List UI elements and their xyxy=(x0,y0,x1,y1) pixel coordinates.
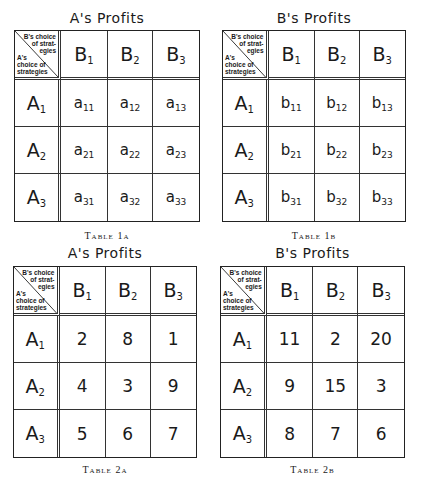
table-caption: Table 2b xyxy=(220,464,405,475)
payoff-cell: 9 xyxy=(267,363,314,410)
row-axis-label: A'schoice ofstrategies xyxy=(16,290,47,311)
column-header: B2 xyxy=(106,267,151,316)
payoff-cell: b13 xyxy=(360,80,406,127)
table-title: B's Profits xyxy=(222,10,406,26)
payoff-cell: 15 xyxy=(313,363,358,410)
payoff-cell: 5 xyxy=(60,410,106,457)
row-header: A3 xyxy=(14,410,60,457)
payoff-cell: b11 xyxy=(269,80,315,127)
table-title: B's Profits xyxy=(220,245,405,261)
payoff-cell: 20 xyxy=(358,316,404,363)
column-header: B3 xyxy=(360,31,406,80)
corner-cell: B's choiceof strat-egies A'schoice ofstr… xyxy=(14,267,60,316)
table-title: A's Profits xyxy=(13,245,197,261)
payoff-cell: b22 xyxy=(315,127,360,174)
payoff-cell: 3 xyxy=(358,363,404,410)
column-header: B1 xyxy=(269,31,315,80)
row-axis-label: A'schoice ofstrategies xyxy=(225,54,256,75)
payoff-cell: a13 xyxy=(153,80,199,127)
payoff-cell: b31 xyxy=(269,174,315,221)
payoff-cell: b23 xyxy=(360,127,406,174)
payoff-cell: a11 xyxy=(61,80,108,127)
payoff-matrix: B's choiceof strat-egies A'schoice ofstr… xyxy=(14,30,200,222)
payoff-cell: b12 xyxy=(315,80,360,127)
row-header: A3 xyxy=(223,174,269,221)
table-title: A's Profits xyxy=(14,10,200,26)
payoff-cell: 6 xyxy=(358,410,404,457)
column-header: B2 xyxy=(313,267,358,316)
payoff-cell: 7 xyxy=(313,410,358,457)
column-axis-label: B's choiceof strat-egies xyxy=(22,269,54,290)
row-header: A1 xyxy=(14,316,60,363)
row-axis-label: A'schoice ofstrategies xyxy=(223,290,254,311)
corner-cell: B's choiceof strat-egies A'schoice ofstr… xyxy=(221,267,267,316)
table-caption: Table 2a xyxy=(13,464,197,475)
table-caption: Table 1b xyxy=(222,230,406,241)
row-header: A1 xyxy=(15,80,61,127)
payoff-cell: 2 xyxy=(60,316,106,363)
payoff-matrix: B's choiceof strat-egies A'schoice ofstr… xyxy=(220,266,405,458)
column-axis-label: B's choiceof strat-egies xyxy=(24,33,56,54)
row-header: A1 xyxy=(221,316,267,363)
payoff-cell: 4 xyxy=(60,363,106,410)
payoff-cell: a22 xyxy=(108,127,153,174)
row-axis-label: A'schoice ofstrategies xyxy=(17,54,48,75)
column-header: B3 xyxy=(153,31,199,80)
column-axis-label: B's choiceof strat-egies xyxy=(231,33,263,54)
payoff-cell: a21 xyxy=(61,127,108,174)
payoff-cell: b21 xyxy=(269,127,315,174)
payoff-cell: 1 xyxy=(151,316,197,363)
payoff-cell: 7 xyxy=(151,410,197,457)
column-header: B2 xyxy=(315,31,360,80)
payoff-cell: 8 xyxy=(106,316,151,363)
payoff-cell: a12 xyxy=(108,80,153,127)
corner-cell: B's choiceof strat-egies A'schoice ofstr… xyxy=(15,31,61,80)
payoff-cell: 6 xyxy=(106,410,151,457)
table-1b-panel: B's Profits B's choiceof strat-egies A's… xyxy=(222,8,406,238)
column-axis-label: B's choiceof strat-egies xyxy=(229,269,261,290)
column-header: B3 xyxy=(358,267,404,316)
row-header: A1 xyxy=(223,80,269,127)
row-header: A2 xyxy=(14,363,60,410)
table-2a-panel: A's Profits B's choiceof strat-egies A's… xyxy=(13,243,197,478)
payoff-cell: a32 xyxy=(108,174,153,221)
payoff-matrix: B's choiceof strat-egies A'schoice ofstr… xyxy=(13,266,197,458)
row-header: A2 xyxy=(221,363,267,410)
column-header: B1 xyxy=(61,31,108,80)
payoff-cell: 8 xyxy=(267,410,314,457)
payoff-matrix: B's choiceof strat-egies A'schoice ofstr… xyxy=(222,30,406,222)
row-header: A2 xyxy=(223,127,269,174)
payoff-cell: 3 xyxy=(106,363,151,410)
column-header: B1 xyxy=(60,267,106,316)
payoff-cell: b33 xyxy=(360,174,406,221)
row-header: A3 xyxy=(221,410,267,457)
row-header: A3 xyxy=(15,174,61,221)
table-2b-panel: B's Profits B's choiceof strat-egies A's… xyxy=(220,243,405,478)
payoff-cell: a23 xyxy=(153,127,199,174)
payoff-cell: a33 xyxy=(153,174,199,221)
payoff-cell: 11 xyxy=(267,316,314,363)
column-header: B2 xyxy=(108,31,153,80)
payoff-cell: a31 xyxy=(61,174,108,221)
table-caption: Table 1a xyxy=(14,230,200,241)
payoff-cell: b32 xyxy=(315,174,360,221)
column-header: B1 xyxy=(267,267,314,316)
payoff-cell: 2 xyxy=(313,316,358,363)
column-header: B3 xyxy=(151,267,197,316)
payoff-cell: 9 xyxy=(151,363,197,410)
corner-cell: B's choiceof strat-egies A'schoice ofstr… xyxy=(223,31,269,80)
row-header: A2 xyxy=(15,127,61,174)
table-1a-panel: A's Profits B's choiceof strat-egies A's… xyxy=(14,8,200,238)
